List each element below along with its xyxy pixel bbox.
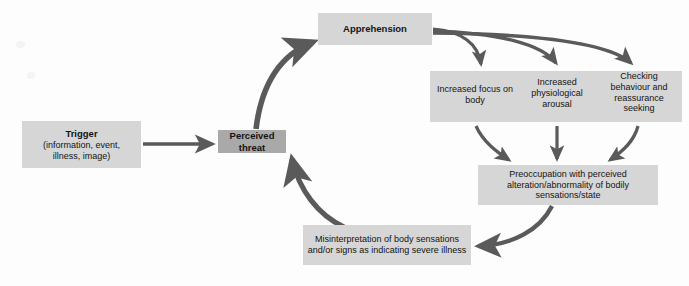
arrow-perceived-threat-to-apprehension	[256, 42, 313, 129]
arrow-increased-focus-to-preoccupation	[476, 126, 509, 160]
response-increased-focus: Increased focus on body	[434, 84, 516, 106]
scan-artifact-spot	[27, 72, 35, 79]
node-responses-group[interactable]: Increased focus on body Increased physio…	[430, 71, 682, 122]
response-increased-arousal: Increased physiological arousal	[520, 77, 594, 109]
misinterpretation-label: Misinterpretation of body sensations and…	[303, 234, 471, 255]
node-apprehension[interactable]: Apprehension	[318, 13, 432, 45]
node-perceived-threat[interactable]: Perceived threat	[218, 130, 286, 153]
perceived-threat-label: Perceived threat	[218, 130, 286, 152]
arrow-checking-to-preoccupation	[610, 126, 638, 160]
arrow-apprehension-to-checking	[433, 33, 631, 63]
preoccupation-label: Preoccupation with perceived alteration/…	[478, 169, 658, 201]
node-misinterpretation[interactable]: Misinterpretation of body sensations and…	[303, 225, 471, 265]
trigger-detail-line2: illness, image)	[53, 151, 111, 161]
trigger-title: Trigger	[43, 128, 120, 139]
trigger-detail-line1: (information, event,	[43, 140, 120, 150]
response-checking-behaviour: Checking behaviour and reassurance seeki…	[600, 71, 678, 114]
node-preoccupation[interactable]: Preoccupation with perceived alteration/…	[478, 165, 658, 205]
diagram-canvas: Trigger (information, event, illness, im…	[0, 0, 689, 286]
apprehension-label: Apprehension	[343, 23, 407, 34]
arrow-misinterpretation-to-perceived-threat	[292, 159, 344, 227]
scan-artifact-spot	[16, 41, 25, 48]
arrow-apprehension-to-increased-arousal	[433, 31, 556, 63]
arrow-apprehension-to-increased-focus	[433, 29, 481, 64]
arrow-preoccupation-to-misinterpretation	[479, 206, 552, 246]
figure-caption	[330, 272, 689, 286]
node-trigger[interactable]: Trigger (information, event, illness, im…	[22, 121, 141, 168]
